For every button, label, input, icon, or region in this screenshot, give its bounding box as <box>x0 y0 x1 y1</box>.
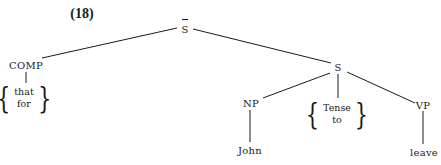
node-vp: VP <box>416 101 431 111</box>
overbar <box>182 19 188 20</box>
edge-sbar-s <box>193 29 331 63</box>
tense-option-to: to <box>332 114 342 126</box>
comp-options: { that for } <box>0 83 54 113</box>
tense-options: { Tense to } <box>303 99 371 129</box>
tense-option-tense: Tense <box>323 102 351 114</box>
right-brace-icon: } <box>38 83 51 113</box>
left-brace-icon: { <box>0 83 10 113</box>
terminal-leave: leave <box>410 148 438 158</box>
example-number: (18) <box>70 6 93 22</box>
edge-s-np <box>263 73 330 98</box>
node-comp: COMP <box>9 61 43 71</box>
terminal-john: John <box>238 146 262 156</box>
comp-option-for: for <box>17 98 31 110</box>
node-np: NP <box>243 99 259 109</box>
node-s-bar: S <box>181 25 188 35</box>
tree-edges <box>0 0 441 165</box>
edge-sbar-comp <box>42 28 177 58</box>
right-brace-icon: } <box>355 99 368 129</box>
comp-option-that: that <box>14 86 33 98</box>
left-brace-icon: { <box>306 99 319 129</box>
node-s: S <box>334 63 341 73</box>
